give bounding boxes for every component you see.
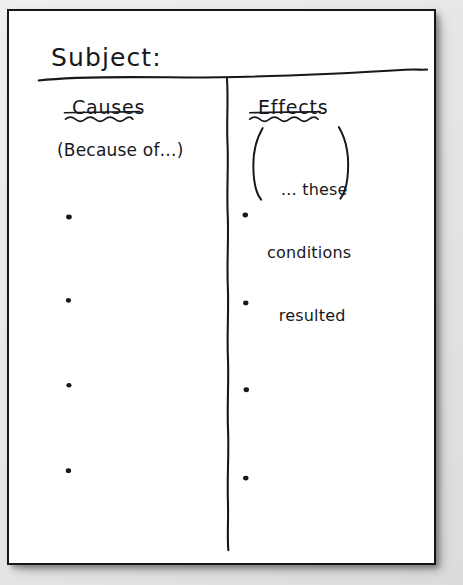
effects-bullet-2 — [243, 301, 248, 306]
causes-column-hint: (Because of…) — [57, 139, 184, 161]
causes-column-heading: Causes — [72, 96, 145, 119]
effects-bullet-1 — [243, 213, 249, 218]
causes-bullet-4 — [66, 468, 71, 473]
effects-column-hint: … these conditions resulted — [267, 137, 351, 368]
effects-hint-line-2: conditions — [267, 242, 351, 263]
subject-label: Subject: — [51, 43, 162, 73]
causes-bullet-1 — [66, 215, 72, 220]
effects-hint-line-3: resulted — [267, 305, 351, 326]
worksheet-sheet: Subject: Causes Effects (Because of…) … … — [7, 9, 436, 565]
effects-bullet-3 — [243, 387, 249, 392]
effects-hint-line-1: … these — [267, 179, 351, 200]
effects-paren-left — [253, 128, 262, 199]
causes-bullet-2 — [66, 298, 71, 303]
column-divider — [227, 79, 228, 551]
effects-bullet-4 — [243, 476, 249, 481]
ink-layer — [9, 11, 434, 563]
causes-bullet-3 — [66, 383, 71, 388]
effects-column-heading: Effects — [258, 96, 328, 119]
